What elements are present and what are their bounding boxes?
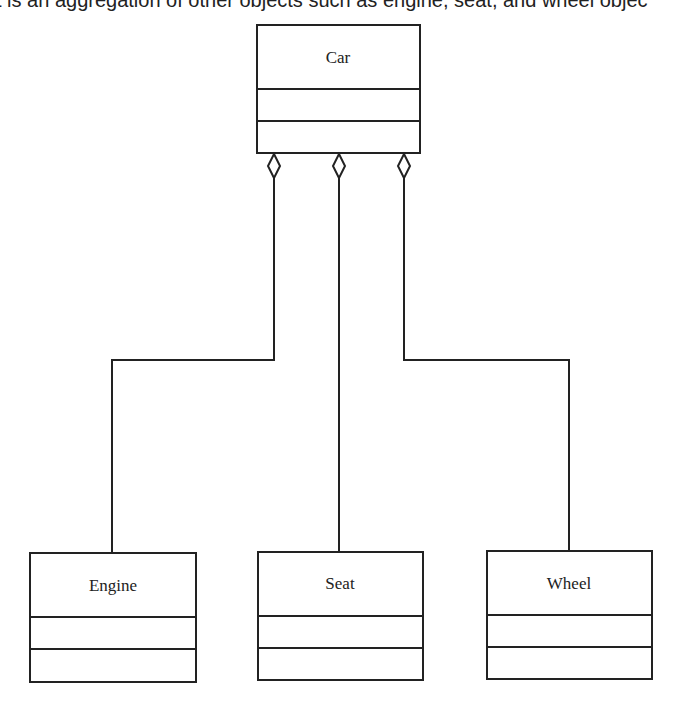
connector-wheel — [404, 178, 569, 551]
class-car[interactable] — [257, 25, 420, 153]
class-name-car: Car — [326, 48, 351, 67]
class-name-seat: Seat — [325, 574, 355, 593]
class-name-wheel: Wheel — [547, 574, 592, 593]
class-engine[interactable] — [30, 553, 196, 682]
connector-engine — [112, 178, 274, 553]
class-name-engine: Engine — [89, 576, 137, 595]
class-wheel[interactable] — [487, 551, 652, 679]
aggregation-diamond-wheel — [398, 154, 410, 178]
class-seat[interactable] — [258, 552, 423, 680]
aggregation-diamond-engine — [268, 154, 280, 178]
uml-diagram: Car Engine Seat Wheel — [0, 0, 688, 712]
aggregation-diamond-seat — [333, 154, 345, 178]
